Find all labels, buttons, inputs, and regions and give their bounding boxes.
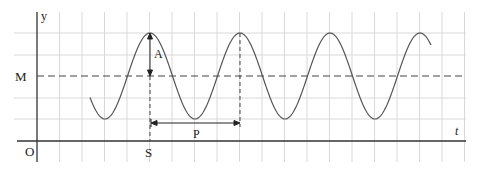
- amplitude-label: A: [154, 47, 163, 61]
- start-label: S: [145, 145, 152, 160]
- t-axis-label: t: [455, 124, 459, 138]
- sine-wave-diagram: y t O M A P S: [0, 0, 478, 170]
- y-axis-label: y: [41, 9, 47, 23]
- midline-label: M: [15, 69, 27, 84]
- origin-label: O: [25, 144, 34, 159]
- period-label: P: [193, 127, 200, 141]
- period-arrow: [151, 119, 240, 127]
